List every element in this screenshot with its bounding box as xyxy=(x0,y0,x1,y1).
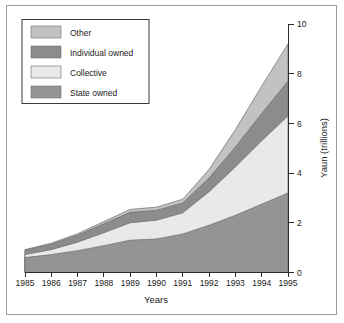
legend-label-state-owned: State owned xyxy=(70,88,118,98)
x-tick-label: 1992 xyxy=(200,278,219,288)
legend-swatch-state-owned xyxy=(31,86,61,98)
legend-swatch-other xyxy=(31,26,61,38)
x-tick-label: 1985 xyxy=(16,278,35,288)
y-axis-title: Yaun (trillions) xyxy=(318,118,329,178)
y-tick-label: 0 xyxy=(297,268,302,278)
legend-swatch-collective xyxy=(31,66,61,78)
figure-container: 0246810 19851986198719881989199019911992… xyxy=(0,0,344,323)
x-tick-label: 1990 xyxy=(147,278,166,288)
y-axis-ticks: 0246810 xyxy=(289,19,307,278)
x-tick-label: 1993 xyxy=(226,278,245,288)
x-tick-label: 1987 xyxy=(68,278,87,288)
x-tick-label: 1995 xyxy=(279,278,298,288)
x-tick-label: 1989 xyxy=(121,278,140,288)
x-tick-label: 1988 xyxy=(94,278,113,288)
legend-label-other: Other xyxy=(70,28,91,38)
x-axis-ticks: 1985198619871988198919901991199219931994… xyxy=(16,273,298,289)
chart-legend: OtherIndividual ownedCollectiveState own… xyxy=(22,20,149,104)
y-tick-label: 10 xyxy=(297,19,307,29)
x-axis-title: Years xyxy=(144,294,168,305)
x-tick-label: 1991 xyxy=(173,278,192,288)
y-tick-label: 8 xyxy=(297,69,302,79)
y-tick-label: 4 xyxy=(297,168,302,178)
x-tick-label: 1986 xyxy=(42,278,61,288)
x-tick-label: 1994 xyxy=(252,278,271,288)
stacked-area-chart: 0246810 19851986198719881989199019911992… xyxy=(0,0,344,323)
legend-swatch-individual-owned xyxy=(31,46,61,58)
legend-label-collective: Collective xyxy=(70,68,107,78)
y-tick-label: 2 xyxy=(297,218,302,228)
legend-label-individual-owned: Individual owned xyxy=(70,48,134,58)
y-tick-label: 6 xyxy=(297,119,302,129)
